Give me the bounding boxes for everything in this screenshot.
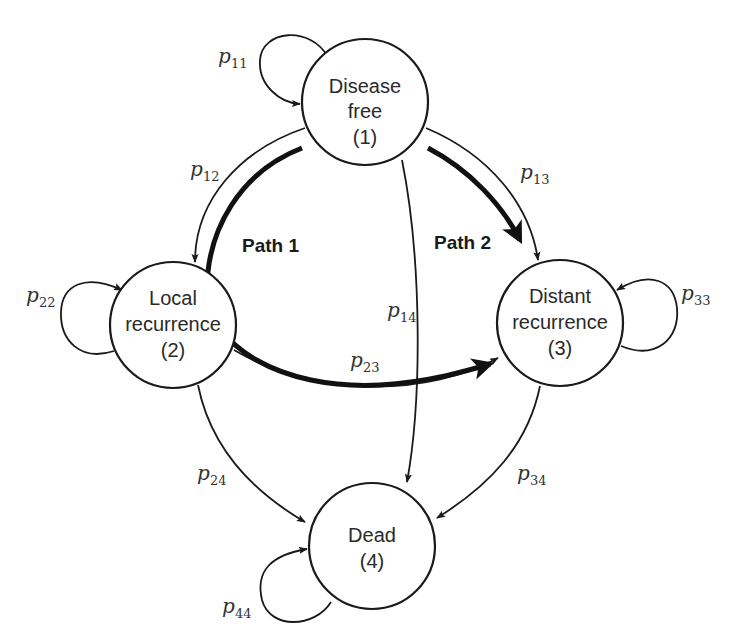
label-p44: p 44 (222, 594, 252, 621)
svg-text:22: 22 (39, 295, 56, 310)
state-3-label-line1: Distant (529, 285, 592, 307)
path-2-label: Path 2 (434, 232, 491, 253)
svg-text:11: 11 (231, 56, 248, 71)
svg-text:p: p (517, 461, 530, 485)
svg-text:23: 23 (363, 360, 380, 375)
svg-text:24: 24 (210, 473, 227, 488)
svg-text:p: p (350, 348, 363, 372)
state-disease-free: Disease free (1) (302, 39, 428, 165)
svg-text:p: p (218, 44, 231, 68)
svg-text:p: p (222, 594, 235, 618)
svg-text:13: 13 (533, 172, 550, 187)
label-p22: p 22 (26, 283, 56, 310)
state-1-label-line1: Disease (329, 75, 401, 97)
label-p23: p 23 (350, 348, 380, 375)
state-1-label-line2: free (348, 100, 382, 122)
state-4-index: (4) (360, 550, 384, 572)
label-p33: p 33 (681, 281, 711, 308)
state-2-label-line2: recurrence (125, 313, 221, 335)
label-p11: p 11 (218, 44, 248, 71)
label-p13: p 13 (520, 160, 550, 187)
label-p12: p 12 (190, 157, 220, 184)
svg-text:p: p (520, 160, 533, 184)
path-1-label: Path 1 (242, 235, 299, 256)
label-p24: p 24 (197, 461, 227, 488)
edge-p33 (617, 280, 677, 351)
svg-text:p: p (26, 283, 39, 307)
svg-text:33: 33 (694, 293, 711, 308)
state-3-label-line2: recurrence (512, 311, 608, 333)
svg-text:p: p (681, 281, 694, 305)
state-2-label-line1: Local (149, 287, 197, 309)
label-p14: p 14 (387, 298, 417, 325)
markov-diagram: Disease free (1) Local recurrence (2) Di… (0, 0, 729, 642)
state-dead: Dead (4) (309, 483, 435, 609)
svg-text:14: 14 (400, 310, 417, 325)
state-4-label-line1: Dead (348, 524, 396, 546)
svg-text:p: p (387, 298, 400, 322)
path-1-line (207, 148, 490, 385)
state-2-index: (2) (161, 339, 185, 361)
state-1-index: (1) (353, 126, 377, 148)
svg-text:p: p (197, 461, 210, 485)
svg-text:p: p (190, 157, 203, 181)
state-distant-recurrence: Distant recurrence (3) (497, 260, 623, 386)
svg-text:34: 34 (530, 473, 547, 488)
state-3-index: (3) (548, 337, 572, 359)
edge-p24 (198, 385, 305, 522)
label-p34: p 34 (517, 461, 547, 488)
state-local-recurrence: Local recurrence (2) (110, 262, 236, 388)
path-2-line (428, 148, 520, 240)
svg-text:44: 44 (235, 606, 252, 621)
svg-text:12: 12 (203, 169, 220, 184)
edge-p34 (437, 386, 540, 518)
